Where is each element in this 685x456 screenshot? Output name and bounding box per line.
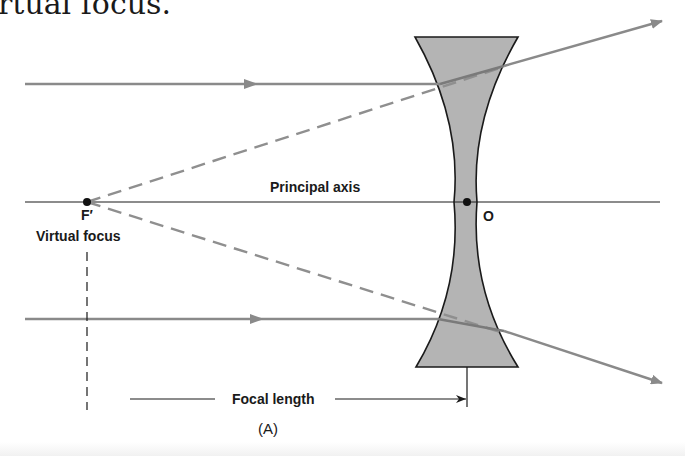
figure-caption: (A) [258, 420, 278, 437]
optical-center-point [463, 198, 471, 206]
focal-length-label: Focal length [232, 391, 314, 407]
dashed-extension-lower [87, 202, 500, 332]
virtual-focus-label: Virtual focus [36, 228, 121, 244]
refracted-ray-lower [504, 331, 662, 383]
diverging-lens-diagram: rtual focus. [0, 0, 685, 456]
virtual-focus-point [83, 198, 91, 206]
ray-direction-arrow-upper [244, 79, 258, 89]
ray-direction-arrow-lower [250, 314, 264, 324]
optical-center-label: O [483, 208, 494, 224]
refracted-ray-upper [504, 21, 662, 66]
principal-axis-label: Principal axis [270, 179, 360, 195]
focal-point-label: F′ [81, 207, 93, 223]
page-edge-strip [0, 442, 685, 456]
